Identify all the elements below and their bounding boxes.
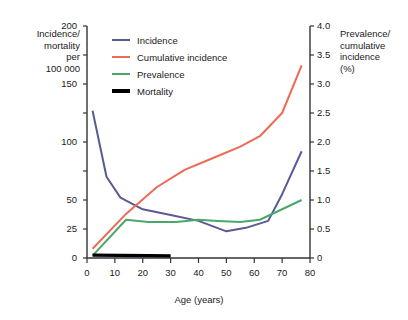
legend-item-label: Incidence [137,35,178,46]
chart-legend: IncidenceCumulative incidencePrevalenceM… [112,33,227,101]
x-tick-label: 60 [239,267,269,278]
legend-swatch-icon [112,73,130,76]
y-tick-label-right: 0.5 [317,223,347,234]
legend-item-label: Cumulative incidence [137,52,227,63]
legend-item-label: Prevalence [137,69,185,80]
y-tick-label-right: 2.5 [317,107,347,118]
x-tick-label: 0 [72,267,102,278]
x-tick-label: 40 [184,267,214,278]
y-tick-label-left: 25 [47,223,77,234]
y-tick-label-right: 2.0 [317,136,347,147]
y-tick-label-right: 1.0 [317,194,347,205]
x-tick-label: 50 [211,267,241,278]
x-axis-title: Age (years) [87,294,311,305]
x-tick-label: 30 [156,267,186,278]
series-line-prevalence [93,200,302,256]
legend-item-cumulative-incidence[interactable]: Cumulative incidence [112,50,227,64]
y-tick-label-left: 0 [47,252,77,263]
chart-figure: Incidence/ mortality per 100 000 Prevale… [0,0,408,320]
legend-swatch-icon [112,39,130,42]
series-line-incidence [93,111,302,232]
y-tick-label-right: 3.5 [317,49,347,60]
series-line-mortality [93,255,171,256]
legend-swatch-icon [112,56,130,59]
legend-item-mortality[interactable]: Mortality [112,84,227,98]
y-tick-label-right: 4.0 [317,20,347,31]
x-tick-label: 70 [267,267,297,278]
x-tick-label: 80 [295,267,325,278]
y-tick-label-left: 50 [47,194,77,205]
y-tick-label-right: 1.5 [317,165,347,176]
y-tick-label-left: 100 [47,136,77,147]
legend-item-label: Mortality [137,86,173,97]
y-tick-label-right: 0 [317,252,347,263]
y-tick-label-right: 3.0 [317,78,347,89]
y-tick-label-left: 200 [47,20,77,31]
y-tick-label-left: 150 [47,78,77,89]
x-tick-label: 10 [100,267,130,278]
legend-item-incidence[interactable]: Incidence [112,33,227,47]
legend-swatch-icon [112,89,130,93]
x-tick-label: 20 [128,267,158,278]
legend-item-prevalence[interactable]: Prevalence [112,67,227,81]
